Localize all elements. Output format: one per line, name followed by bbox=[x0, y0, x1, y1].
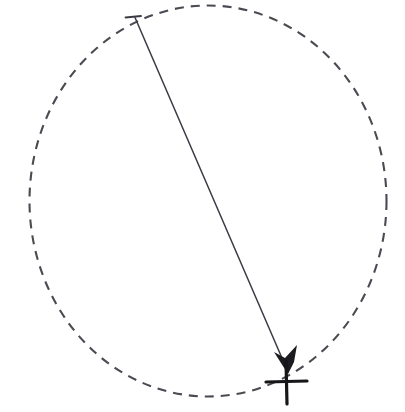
figure-svg: Dashed circle with arrow pointing to cro… bbox=[0, 0, 405, 412]
canvas-background bbox=[0, 0, 405, 412]
diagram-canvas: Dashed circle with arrow pointing to cro… bbox=[0, 0, 405, 412]
crosshair-icon-vertical-bar bbox=[286, 361, 287, 404]
